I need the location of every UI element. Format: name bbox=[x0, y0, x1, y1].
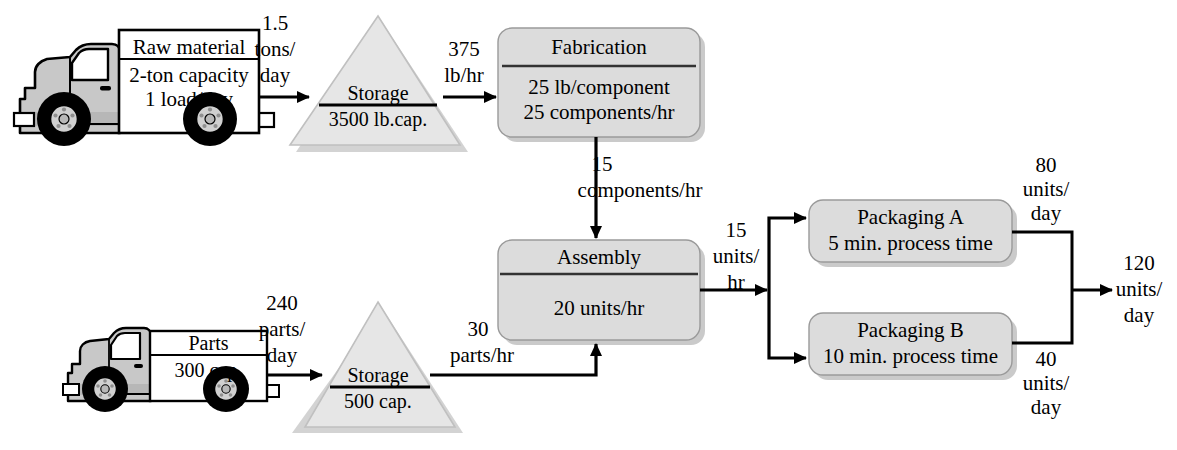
connector-split-to-packaging-a bbox=[769, 218, 806, 290]
connector-packaging-a-to-merge bbox=[1012, 232, 1072, 290]
truck-wheel-rear bbox=[183, 92, 237, 146]
assembly-box bbox=[498, 240, 705, 345]
connector-split-to-packaging-b bbox=[769, 290, 806, 358]
packaging-a-box bbox=[809, 200, 1017, 267]
connector-packaging-b-to-merge bbox=[1012, 290, 1072, 343]
packaging-b-box bbox=[809, 313, 1017, 380]
fabrication-box bbox=[498, 28, 705, 142]
raw-material-storage bbox=[290, 16, 468, 152]
truck-wheel-rear bbox=[203, 366, 249, 412]
raw-material-truck bbox=[14, 30, 274, 146]
diagram-graphics-layer bbox=[0, 0, 1177, 450]
truck-wheel-front bbox=[82, 366, 128, 412]
parts-truck bbox=[63, 328, 279, 412]
process-flow-diagram: Raw material 2-ton capacity 1 load/day P… bbox=[0, 0, 1177, 450]
parts-storage bbox=[292, 302, 463, 433]
truck-wheel-front bbox=[37, 92, 91, 146]
connector-storage2-to-assembly bbox=[430, 344, 596, 375]
